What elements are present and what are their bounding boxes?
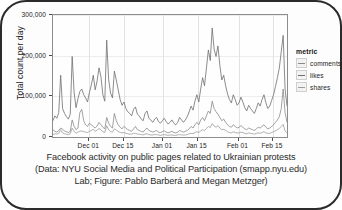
y-tick-label: 300,000	[21, 11, 46, 18]
legend-items: commentslikesshares	[296, 58, 342, 92]
legend-item-likes[interactable]: likes	[296, 70, 342, 80]
figure-page: Total count per day 0100,000200,000300,0…	[0, 0, 342, 210]
x-tick-label: Feb 01	[227, 142, 248, 149]
y-axis-tick-group: 0100,000200,000300,000	[4, 4, 52, 144]
x-axis-tick-group: Dec 01Dec 15Jan 01Jan 15Feb 01Feb 15	[52, 138, 288, 152]
caption-line-2: (Data: NYU Social Media and Political Pa…	[14, 164, 328, 176]
series-line-comments	[53, 89, 287, 133]
x-tick-mark	[123, 138, 124, 141]
x-tick-label: Dec 15	[112, 142, 134, 149]
plot-area	[52, 14, 288, 138]
x-tick-label: Jan 01	[152, 142, 172, 149]
x-tick-mark	[238, 138, 239, 141]
caption-line-1: Facebook activity on public pages relate…	[14, 152, 328, 164]
x-tick-mark	[88, 138, 89, 141]
y-tick-label: 0	[42, 133, 46, 140]
legend: metric commentslikesshares	[296, 48, 342, 94]
y-tick-label: 200,000	[21, 51, 46, 58]
chart-figure: Total count per day 0100,000200,000300,0…	[4, 4, 338, 152]
x-tick-mark	[162, 138, 163, 141]
x-tick-mark	[272, 138, 273, 141]
x-tick-mark	[197, 138, 198, 141]
series-line-likes	[53, 28, 287, 125]
legend-label: likes	[310, 72, 324, 79]
legend-item-shares[interactable]: shares	[296, 82, 342, 92]
caption-line-3: Lab; Figure: Pablo Barberá and Megan Met…	[14, 176, 328, 188]
legend-title: metric	[296, 48, 342, 55]
y-tick-label: 100,000	[21, 92, 46, 99]
legend-swatch-icon	[296, 70, 307, 80]
series-lines	[53, 15, 287, 137]
figure-caption: Facebook activity on public pages relate…	[14, 152, 328, 187]
legend-swatch-icon	[296, 82, 307, 92]
legend-label: shares	[310, 84, 330, 91]
x-tick-label: Dec 01	[78, 142, 100, 149]
x-tick-label: Feb 15	[261, 142, 282, 149]
legend-swatch-icon	[296, 58, 307, 68]
legend-item-comments[interactable]: comments	[296, 58, 342, 68]
legend-label: comments	[310, 60, 341, 67]
x-tick-label: Jan 15	[186, 142, 206, 149]
